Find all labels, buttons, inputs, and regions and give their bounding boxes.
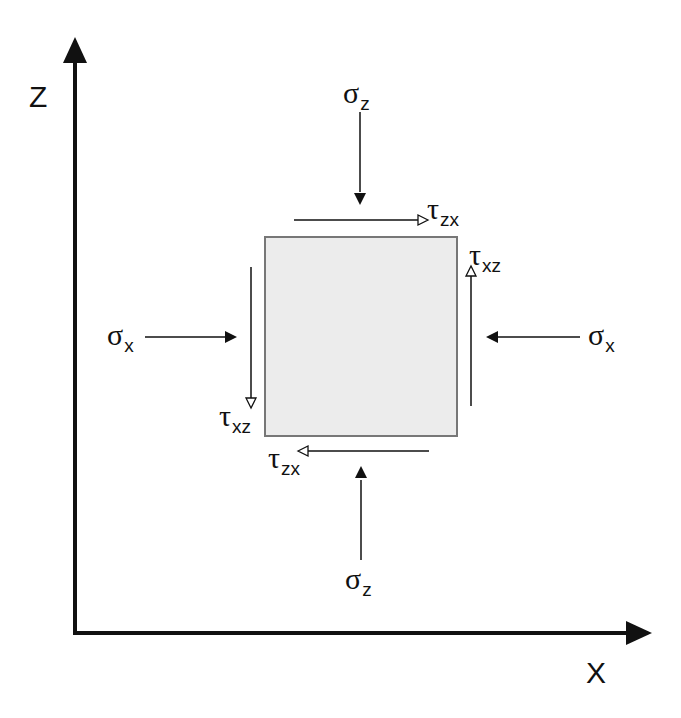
tau-zx-top-arrow — [294, 215, 428, 225]
symbol: σ — [588, 318, 604, 351]
subscript: z — [360, 93, 370, 114]
x-axis — [73, 621, 652, 645]
stress-diagram-canvas — [0, 0, 681, 718]
tau-xz-right-label: τxz — [469, 240, 501, 270]
stress-element — [265, 237, 457, 436]
subscript: x — [605, 335, 615, 356]
subscript: z — [362, 579, 372, 600]
arrowhead-left-icon — [486, 331, 498, 343]
subscript: zx — [281, 458, 300, 479]
symbol: σ — [343, 76, 359, 109]
subscript: xz — [232, 416, 251, 437]
arrowhead-down-icon — [354, 193, 366, 205]
arrowhead-up-icon — [355, 466, 367, 478]
tau-xz-left-label: τxz — [219, 401, 251, 431]
tau-xz-left-arrow — [246, 267, 256, 408]
z-axis-arrowhead-icon — [63, 37, 87, 63]
symbol: τ — [268, 441, 280, 474]
x-axis-arrowhead-icon — [626, 621, 652, 645]
sigma-x-right-arrow — [486, 331, 580, 343]
sigma-x-left-label: σx — [107, 320, 134, 350]
tau-xz-right-arrow — [466, 266, 476, 406]
subscript: xz — [482, 255, 501, 276]
symbol: τ — [427, 192, 439, 225]
sigma-z-bottom-arrow — [355, 466, 367, 560]
symbol: τ — [219, 399, 231, 432]
subscript: x — [124, 335, 134, 356]
sigma-z-top-label: σz — [343, 78, 370, 108]
symbol: τ — [469, 238, 481, 271]
subscript: zx — [440, 209, 459, 230]
tau-zx-top-label: τzx — [427, 194, 459, 224]
tau-zx-bottom-arrow — [298, 446, 429, 456]
x-axis-label: X — [586, 658, 606, 688]
tau-zx-bottom-label: τzx — [268, 443, 300, 473]
sigma-z-top-arrow — [354, 112, 366, 205]
sigma-z-bottom-label: σz — [345, 564, 372, 594]
sigma-x-right-label: σx — [588, 320, 615, 350]
z-axis-label: Z — [29, 82, 47, 112]
symbol: σ — [345, 562, 361, 595]
sigma-x-left-arrow — [145, 331, 237, 343]
z-axis — [63, 37, 87, 634]
symbol: σ — [107, 318, 123, 351]
arrowhead-right-icon — [225, 331, 237, 343]
